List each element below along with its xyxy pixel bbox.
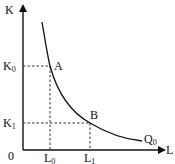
origin-label: 0 — [8, 149, 14, 163]
x-tick-l0: L0 — [44, 151, 55, 164]
point-b-label: B — [90, 108, 98, 122]
x-axis-label: L — [166, 143, 173, 157]
curve-label-q0: Q0 — [144, 132, 157, 147]
y-tick-k0: K0 — [3, 59, 16, 74]
y-tick-k1: K1 — [3, 116, 16, 131]
point-a-label: A — [54, 59, 63, 73]
isoquant-diagram: K L 0 K0 K1 L0 L1 A B Q0 — [0, 0, 175, 164]
y-axis-label: K — [5, 3, 14, 17]
x-tick-l1: L1 — [84, 151, 95, 164]
